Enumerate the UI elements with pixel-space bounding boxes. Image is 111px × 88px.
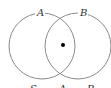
bottom-label-s: S bbox=[30, 83, 37, 88]
bottom-label-b: B bbox=[86, 83, 94, 88]
set-a-circle bbox=[9, 13, 75, 79]
set-a-label: A bbox=[36, 7, 44, 18]
venn-diagram: A B S A B bbox=[0, 0, 111, 88]
intersection-point bbox=[61, 43, 65, 47]
set-b-circle bbox=[45, 13, 111, 79]
set-b-label: B bbox=[79, 7, 87, 18]
bottom-label-a: A bbox=[58, 83, 66, 88]
